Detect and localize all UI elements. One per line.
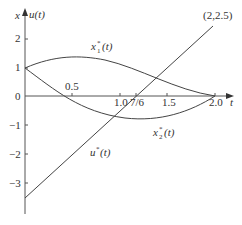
svg-text:(t): (t) [102,40,113,53]
y-tick-2: 2 [15,32,21,44]
x-tick-0.5: 0.5 [65,80,79,92]
x1-label: x * 1 (t) [90,39,113,55]
x2-label: x * 2 (t) [152,125,175,141]
svg-text:2: 2 [159,133,163,141]
endpoint-label: (2,2.5) [203,9,233,22]
u-label: u * (t) [90,145,111,159]
y-tick-m3: −3 [9,177,21,189]
svg-text:1: 1 [97,47,101,55]
x-tick-2.0: 2.0 [209,96,223,108]
svg-text:(t): (t) [164,126,175,139]
x-tick-7/6: 7/6 [130,96,145,108]
x1-curve [25,57,215,96]
y-tick-m1: −1 [9,119,21,131]
x-tick-1.0: 1.0 [114,96,128,108]
x-tick-1.5: 1.5 [162,96,176,108]
y-axis-label-u: u(t) [29,8,45,21]
u-line [25,26,213,198]
x-axis-label-t: t [230,96,234,108]
y-axis-arrow-icon [22,8,28,16]
y-tick-m2: −2 [9,148,21,160]
svg-text:x: x [152,126,158,138]
svg-text:(t): (t) [100,146,111,159]
y-axis-label-x: x [14,9,20,21]
y-tick-0: 0 [15,90,21,102]
y-tick-1: 1 [15,61,21,73]
chart: 2 1 0 −1 −2 −3 0.5 1.0 7/6 1.5 2.0 x u(t… [0,0,242,225]
svg-text:*: * [97,39,101,47]
svg-text:x: x [90,40,96,52]
svg-text:*: * [159,125,163,133]
